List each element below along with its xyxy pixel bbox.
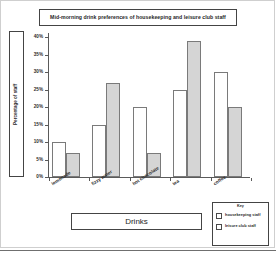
bar bbox=[187, 41, 201, 178]
x-tick-mark bbox=[130, 178, 131, 181]
x-axis-title: Drinks bbox=[125, 218, 148, 226]
bar bbox=[133, 107, 147, 177]
y-tick-label: 35% bbox=[34, 52, 43, 57]
bar bbox=[214, 72, 228, 177]
y-tick-label: 15% bbox=[34, 122, 43, 127]
y-tick-mark bbox=[45, 107, 48, 108]
legend-title: Key bbox=[216, 205, 265, 209]
y-tick-mark bbox=[45, 37, 48, 38]
chart-title-box: Mid-morning drink preferences of houseke… bbox=[39, 9, 237, 26]
bar bbox=[106, 83, 120, 178]
legend-swatch bbox=[216, 213, 222, 219]
y-tick-label: 25% bbox=[34, 87, 43, 92]
x-tick-mark bbox=[211, 178, 212, 181]
y-axis-title-box: Percentage of staff bbox=[9, 31, 24, 177]
y-tick-mark bbox=[45, 177, 48, 178]
y-tick: 20% bbox=[48, 107, 49, 108]
page-bottom-margin bbox=[0, 252, 276, 258]
x-tick-mark bbox=[49, 178, 50, 181]
y-tick-mark bbox=[45, 55, 48, 56]
y-tick-mark bbox=[45, 142, 48, 143]
legend-entries: housekeeping staffleisure club staff bbox=[216, 213, 265, 230]
chart-page: Mid-morning drink preferences of houseke… bbox=[0, 0, 276, 258]
bar bbox=[92, 125, 106, 178]
legend-label: leisure club staff bbox=[225, 224, 256, 229]
y-tick-label: 10% bbox=[34, 140, 43, 145]
x-tick-mark bbox=[89, 178, 90, 181]
y-tick: 30% bbox=[48, 72, 49, 73]
y-tick-mark bbox=[45, 125, 48, 126]
x-axis-category-label: tea bbox=[172, 179, 180, 187]
x-tick-mark bbox=[170, 178, 171, 181]
y-tick: 25% bbox=[48, 90, 49, 91]
y-tick-mark bbox=[45, 160, 48, 161]
y-tick-label: 30% bbox=[34, 70, 43, 75]
y-tick-label: 5% bbox=[36, 157, 43, 162]
y-tick-mark bbox=[45, 72, 48, 73]
legend-box: Key housekeeping staffleisure club staff bbox=[212, 202, 269, 246]
page-bottom-rule bbox=[0, 250, 276, 251]
y-tick-mark bbox=[45, 90, 48, 91]
y-tick: 35% bbox=[48, 55, 49, 56]
legend-entry: housekeeping staff bbox=[216, 213, 265, 219]
y-tick: 15% bbox=[48, 125, 49, 126]
y-tick: 40% bbox=[48, 37, 49, 38]
y-tick-label: 0% bbox=[36, 175, 43, 180]
legend-entry: leisure club staff bbox=[216, 224, 265, 230]
x-tick-mark bbox=[251, 178, 252, 181]
bar bbox=[52, 142, 66, 177]
bar bbox=[173, 90, 187, 178]
x-axis-title-box: Drinks bbox=[71, 213, 202, 230]
y-tick-label: 40% bbox=[34, 35, 43, 40]
chart-title: Mid-morning drink preferences of houseke… bbox=[50, 15, 226, 20]
bar bbox=[228, 107, 242, 177]
legend-swatch bbox=[216, 224, 222, 230]
plot-area: 0%5%10%15%20%25%30%35%40% lemonadefizzy … bbox=[48, 33, 250, 178]
y-tick: 5% bbox=[48, 160, 49, 161]
y-tick-label: 20% bbox=[34, 105, 43, 110]
y-axis-title: Percentage of staff bbox=[14, 83, 19, 124]
legend-label: housekeeping staff bbox=[225, 213, 260, 218]
y-tick: 10% bbox=[48, 142, 49, 143]
